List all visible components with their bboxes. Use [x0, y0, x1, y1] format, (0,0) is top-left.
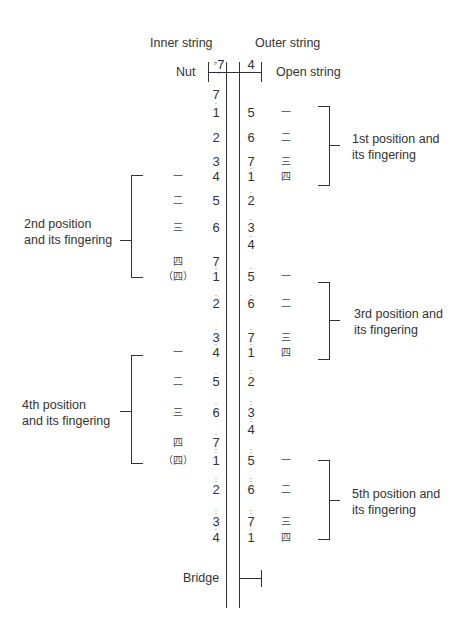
inner-note: 5 [208, 194, 224, 208]
inner-string-line [226, 62, 227, 608]
inner-note: 1· [208, 270, 224, 284]
bracket-4th-tick [120, 411, 131, 412]
inner-note: 5· [208, 375, 224, 389]
outer-note: 6 [243, 131, 259, 145]
finger-marker: 四 [271, 171, 301, 183]
finger-marker: （四） [156, 455, 200, 467]
octave-dot-above: · [208, 294, 224, 297]
outer-note: 5·· [243, 454, 259, 468]
octave-dot-above: ·· [243, 448, 259, 454]
finger-marker: 三 [271, 332, 301, 344]
open-string-label: Open string [276, 65, 341, 79]
outer-note: 6·· [243, 483, 259, 497]
bracket-1st-tick [330, 145, 340, 146]
finger-marker: 二 [163, 376, 193, 388]
inner-note: 4 [208, 170, 224, 184]
octave-dot-above: · [243, 328, 259, 331]
finger-marker: （四） [156, 271, 200, 283]
octave-dot-above: · [208, 433, 224, 436]
finger-marker: 二 [163, 195, 193, 207]
nut-right-tick [261, 62, 262, 82]
finger-marker: 四 [163, 256, 193, 268]
octave-dot-above: · [208, 372, 224, 375]
bracket-3rd-position [318, 282, 330, 360]
bridge-bar [240, 578, 262, 579]
octave-dot-above: ·· [243, 509, 259, 515]
octave-dot-above: ·· [208, 448, 224, 454]
finger-marker: 三 [271, 156, 301, 168]
open-note-outer: 4 [243, 58, 259, 72]
octave-dot-above: · [243, 294, 259, 297]
inner-string-label: Inner string [150, 36, 213, 50]
outer-note: 4·· [243, 423, 259, 437]
finger-marker: 三 [271, 516, 301, 528]
bracket-1st-position [318, 106, 330, 186]
octave-dot-above: ·· [243, 417, 259, 423]
octave-dot-above: ·· [243, 477, 259, 483]
finger-marker: 一 [163, 347, 193, 359]
octave-dot-above: · [208, 328, 224, 331]
label-1st-position: 1st position andits fingering [352, 131, 440, 163]
finger-marker: 二 [271, 484, 301, 496]
inner-note: 2 [208, 131, 224, 145]
octave-dot-above: · [208, 343, 224, 346]
nut-label: Nut [176, 65, 195, 79]
inner-note: 1 [208, 106, 224, 120]
finger-marker: 三 [163, 222, 193, 234]
inner-note: 6 [208, 221, 224, 235]
finger-marker: 一 [271, 271, 301, 283]
outer-string-label: Outer string [255, 36, 320, 50]
open-note-inner: ♭7 · [210, 58, 228, 72]
outer-note: 1··· [243, 531, 259, 545]
label-4th-position: 4th positionand its fingering [22, 397, 110, 429]
octave-dot-above: · [208, 403, 224, 406]
finger-marker: 四 [163, 437, 193, 449]
outer-note: 1· [243, 170, 259, 184]
outer-note: 4· [243, 238, 259, 252]
bridge-tick [261, 570, 262, 587]
outer-note: 6· [243, 297, 259, 311]
outer-note: 5· [243, 270, 259, 284]
outer-string-line [239, 62, 240, 608]
finger-marker: 四 [271, 532, 301, 544]
bracket-3rd-tick [330, 320, 340, 321]
label-3rd-position: 3rd position andits fingering [354, 306, 443, 338]
octave-dot-above: · [243, 167, 259, 170]
octave-dot-above: · [208, 267, 224, 270]
inner-note: 7· [208, 88, 224, 102]
outer-note: 5 [243, 106, 259, 120]
bracket-2nd-tick [120, 240, 131, 241]
octave-dot-above: ·· [243, 340, 259, 346]
octave-dot-above: · [243, 218, 259, 221]
inner-note: 4· [208, 346, 224, 360]
octave-dot-above: · [243, 235, 259, 238]
finger-marker: 一 [163, 171, 193, 183]
bracket-5th-tick [330, 500, 340, 501]
octave-dot-above: · [243, 267, 259, 270]
outer-note: 2·· [243, 375, 259, 389]
outer-note: 1·· [243, 346, 259, 360]
inner-note: 2· [208, 297, 224, 311]
octave-dot-above: ·· [208, 477, 224, 483]
octave-dot-above: ·· [243, 369, 259, 375]
inner-note: 1·· [208, 454, 224, 468]
bridge-label: Bridge [183, 571, 219, 585]
octave-dot-above: ·· [208, 525, 224, 531]
octave-dot-above: · [243, 191, 259, 194]
bracket-5th-position [318, 460, 330, 540]
finger-marker: 二 [271, 298, 301, 310]
bracket-2nd-position [131, 175, 143, 278]
octave-dot-above: ·· [243, 400, 259, 406]
finger-marker: 四 [271, 347, 301, 359]
finger-marker: 一 [271, 455, 301, 467]
octave-dot-above: ·· [208, 509, 224, 515]
finger-marker: 三 [163, 407, 193, 419]
label-2nd-position: 2nd positionand its fingering [24, 216, 112, 248]
inner-note: 4·· [208, 531, 224, 545]
octave-dot-above: ··· [243, 522, 259, 531]
inner-note: 3 [208, 155, 224, 169]
bracket-4th-position [131, 355, 143, 464]
outer-note: 2· [243, 194, 259, 208]
inner-note: 2·· [208, 483, 224, 497]
label-5th-position: 5th position andits fingering [352, 486, 440, 518]
